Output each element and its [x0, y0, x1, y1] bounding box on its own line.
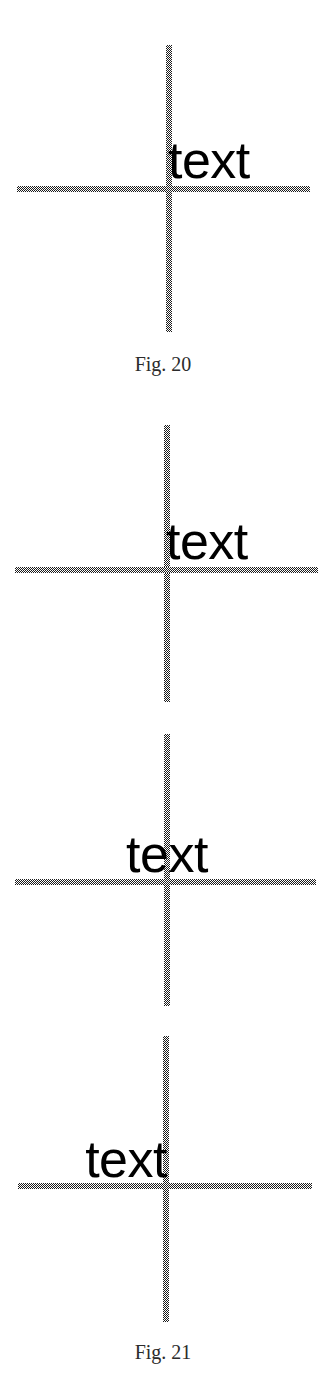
figure-21-caption: Fig. 21	[0, 1340, 326, 1364]
figure-20-caption: Fig. 20	[0, 352, 326, 376]
figure-page: text Fig. 20 text text text Fig. 21	[0, 0, 326, 1382]
text-label: text	[7, 1133, 167, 1185]
text-label: text	[166, 515, 248, 567]
horizontal-baseline-rule	[17, 186, 310, 192]
text-label: text	[87, 828, 247, 880]
text-label: text	[168, 134, 250, 186]
